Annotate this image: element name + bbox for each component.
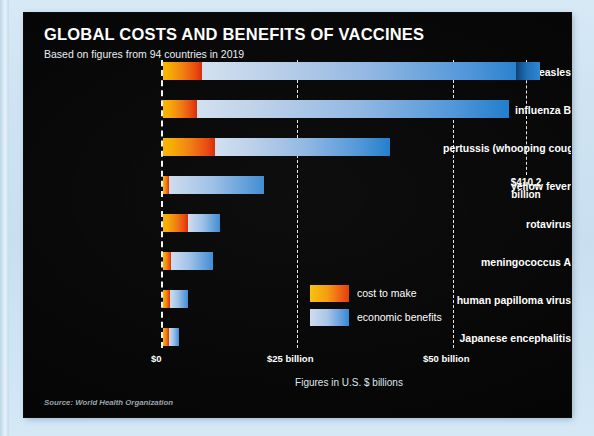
bar-measles-broken-tip [516,62,540,80]
bar-segment-benefit [202,62,527,80]
bar-segment-cost [163,100,197,118]
annotation-measles-value: $410.2 billion [496,177,556,200]
annotation-value: $410.2 [496,177,556,189]
bar-label-japanese-encephalitis: Japanese encephalitis [443,333,571,344]
bar-segment-benefit [171,252,213,270]
bar-segment-benefit [188,214,220,232]
bar-segment-cost [163,214,188,232]
infographic-panel: GLOBAL COSTS AND BENEFITS OF VACCINES Ba… [24,13,571,417]
legend-swatch-cost-icon [310,285,349,302]
annotation-unit: billion [496,189,556,201]
bar-label-meningococcus-a: meningococcus A [443,257,571,268]
bar-segment-benefit [169,328,179,346]
tick-label-0: $0 [151,353,162,364]
bar-segment-benefit [197,100,509,118]
bar-segment-benefit [215,138,390,156]
legend-swatch-benefit-icon [310,309,349,326]
legend-label-cost: cost to make [357,287,417,299]
bar-segment-cost [163,138,215,156]
tick-label-25b: $25 billion [267,353,313,364]
axis-caption: Figures in U.S. $ billions [295,377,403,388]
bar-segment-cost [163,62,202,80]
bar-label-human-papilloma-virus: human papilloma virus [443,295,571,306]
bar-chart: measles influenza B pertussis (whooping … [24,13,571,417]
bar-segment-benefit [170,290,188,308]
source-credit: Source: World Health Organization [44,398,173,407]
bar-label-rotavirus: rotavirus [443,219,571,230]
bar-segment-cost [163,252,171,270]
bar-segment-cost [163,290,170,308]
tick-label-50b: $50 billion [423,353,469,364]
legend-label-benefit: economic benefits [357,311,442,323]
bar-label-pertussis: pertussis (whooping cough) [443,143,571,154]
bar-segment-benefit [169,176,264,194]
